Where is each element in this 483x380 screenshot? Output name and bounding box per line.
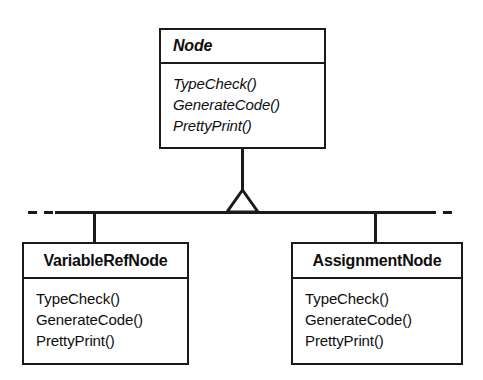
uml-class-variablerefnode: VariableRefNode TypeCheck() GenerateCode… xyxy=(22,242,189,365)
class-name-assignmentnode: AssignmentNode xyxy=(293,244,461,279)
operation-item: PrettyPrint() xyxy=(36,330,187,351)
operation-item: PrettyPrint() xyxy=(173,115,324,136)
operation-item: GenerateCode() xyxy=(305,309,461,330)
operations-compartment-variablerefnode: TypeCheck() GenerateCode() PrettyPrint() xyxy=(24,279,187,363)
uml-class-assignmentnode: AssignmentNode TypeCheck() GenerateCode(… xyxy=(291,242,463,365)
operation-item: GenerateCode() xyxy=(36,309,187,330)
operation-item: TypeCheck() xyxy=(305,288,461,309)
inheritance-triangle-icon xyxy=(227,190,258,212)
class-name-variablerefnode: VariableRefNode xyxy=(24,244,187,279)
class-name-node: Node xyxy=(161,30,324,64)
operations-compartment-assignmentnode: TypeCheck() GenerateCode() PrettyPrint() xyxy=(293,279,461,363)
uml-class-diagram: Node TypeCheck() GenerateCode() PrettyPr… xyxy=(0,0,483,380)
operations-compartment-node: TypeCheck() GenerateCode() PrettyPrint() xyxy=(161,64,324,147)
operation-item: TypeCheck() xyxy=(173,73,324,94)
operation-item: GenerateCode() xyxy=(173,94,324,115)
uml-class-node: Node TypeCheck() GenerateCode() PrettyPr… xyxy=(159,28,326,149)
operation-item: PrettyPrint() xyxy=(305,330,461,351)
operation-item: TypeCheck() xyxy=(36,288,187,309)
